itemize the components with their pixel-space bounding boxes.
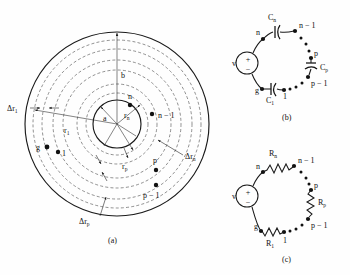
dot-b-arc-4 (301, 82, 304, 85)
node-dot-n (128, 103, 132, 107)
source-label-c: v (232, 192, 236, 201)
label-c-node-n-minus-1: n − 1 (298, 156, 315, 165)
wire-cap-to-n-minus-1 (280, 31, 294, 32)
label-c-node-p: p (314, 181, 318, 190)
source-minus-c: − (246, 198, 251, 207)
node-dot-b-p-minus-1 (306, 75, 310, 79)
label-b-node-p: p (314, 49, 318, 58)
label-r1: r1 (64, 126, 70, 136)
label-rn: rn (124, 111, 130, 121)
panel-b-group: + − v n n − 1 Cn p Cp p − 1 1 (232, 13, 328, 122)
dot-b-arc-1 (300, 37, 303, 40)
resistor-r1 (262, 228, 284, 236)
figure-svg: b a r1 rn rp Δr1 Δrn Δrp g 1 (0, 0, 350, 275)
capacitor-c1-plate-2 (274, 83, 276, 96)
panel-c-group: + − v n n − 1 Rn p Rp p − 1 1 g R1 (c) (232, 149, 328, 264)
label-rp: Rp (318, 198, 326, 208)
node-dot-p (154, 168, 158, 172)
resistor-rn (263, 164, 293, 173)
resistor-rp (307, 190, 314, 217)
source-plus-c: + (246, 188, 251, 197)
wire-c-source-to-n (253, 172, 263, 186)
dot-b-arc-6 (289, 88, 292, 91)
node-dot-p-minus-1 (154, 183, 158, 187)
node-dot-b-n-minus-1 (293, 29, 297, 33)
node-dot-g (45, 145, 50, 150)
wire-n-to-cap (263, 32, 273, 39)
delta-rn-leader (158, 140, 183, 155)
label-cn: Cn (268, 13, 276, 23)
capacitor-cp-plate-2 (305, 67, 317, 69)
label-delta-rp: Δrp (79, 217, 90, 227)
label-node-g: g (36, 143, 40, 152)
label-c-node-1: 1 (283, 236, 287, 245)
label-node-1: 1 (62, 149, 66, 158)
dot-c-arc-1 (300, 171, 303, 174)
label-b-node-1: 1 (283, 92, 287, 101)
label-c-node-n: n (256, 162, 260, 171)
figure-canvas: b a r1 rn rp Δr1 Δrn Δrp g 1 (0, 0, 350, 275)
label-node-p-minus-1: p − 1 (143, 191, 160, 200)
panel-a-group: b a r1 rn rp Δr1 Δrn Δrp g 1 (7, 32, 209, 245)
label-cp: Cp (320, 63, 328, 73)
radial-spoke-1 (104, 124, 117, 146)
label-b: b (121, 71, 125, 80)
source-minus-b: − (246, 65, 251, 74)
label-node-n: n (128, 92, 132, 101)
dot-c-arc-5 (295, 228, 298, 231)
dot-c-arc-2 (305, 177, 308, 180)
node-dot-n-minus-1 (150, 112, 154, 116)
label-node-n-minus-1: n − 1 (158, 111, 175, 120)
wire-source-to-n (253, 39, 263, 53)
delta-rp-arrow-a (96, 155, 101, 164)
label-rn: Rn (269, 149, 277, 159)
radial-spoke-2 (117, 124, 136, 136)
node-dot-c-n-minus-1 (292, 164, 296, 168)
source-plus-b: + (246, 55, 251, 64)
node-dot-c-p-minus-1 (306, 217, 310, 221)
label-delta-rn: Δrn (185, 152, 196, 162)
label-delta-r1: Δr1 (7, 104, 18, 114)
label-b-node-n-minus-1: n − 1 (299, 21, 316, 30)
caption-a: (a) (108, 236, 117, 245)
caption-b: (b) (282, 113, 292, 122)
label-b-node-p-minus-1: p − 1 (311, 79, 328, 88)
delta-rp-arrow-b (102, 172, 107, 181)
label-b-node-g: g (255, 86, 259, 95)
label-r1: R1 (266, 239, 274, 249)
label-c1: C1 (266, 96, 274, 106)
caption-c: (c) (282, 255, 291, 264)
dot-c-arc-4 (301, 224, 304, 227)
label-node-p: p (153, 156, 157, 165)
dot-b-arc-5 (295, 86, 298, 89)
label-b-node-n: n (256, 28, 260, 37)
wire-cp-to-p-minus-1 (309, 69, 311, 75)
dot-b-arc-3 (308, 50, 311, 53)
capacitor-cn-plate-2 (278, 25, 280, 39)
node-dot-1 (56, 150, 60, 154)
dot-c-arc-3 (308, 183, 311, 186)
dot-c-arc-6 (289, 230, 292, 233)
source-label-b: v (232, 59, 236, 68)
dot-b-arc-2 (305, 43, 308, 46)
label-c-node-p-minus-1: p − 1 (311, 221, 328, 230)
